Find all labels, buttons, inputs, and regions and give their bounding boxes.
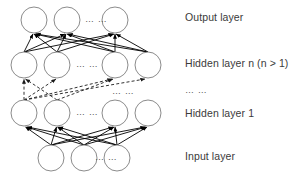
node-hidden-1-1: [11, 100, 37, 126]
node-input-1: [38, 145, 64, 171]
row-ellipsis-output: … …: [85, 14, 107, 24]
network-graphic: [0, 0, 306, 176]
label-input-layer: Input layer: [185, 150, 235, 162]
node-input-2: [71, 145, 97, 171]
node-hidden-n-2: [44, 52, 70, 78]
node-hidden-1-4: [135, 100, 161, 126]
node-hidden-n-3: [102, 52, 128, 78]
label-layers-ellipsis: … …: [185, 85, 207, 95]
node-hidden-1-3: [102, 100, 128, 126]
label-hidden-layer-1: Hidden layer 1: [185, 107, 254, 119]
edges-hiddenn-to-output: [24, 34, 148, 52]
node-hidden-n-4: [135, 52, 161, 78]
node-hidden-1-2: [44, 100, 70, 126]
node-hidden-n-1: [11, 52, 37, 78]
node-output-2: [54, 7, 80, 33]
neural-network-diagram: … … … … … … … … … … Output layer Hidden …: [0, 0, 306, 176]
layer-nodes-output: [21, 7, 128, 33]
row-ellipsis-hidden-n: … …: [76, 59, 98, 69]
label-hidden-layer-n: Hidden layer n (n > 1): [185, 57, 288, 69]
row-ellipsis-hidden-1: … …: [76, 107, 98, 117]
label-output-layer: Output layer: [185, 11, 243, 23]
node-output-1: [21, 7, 47, 33]
edges-input-to-hidden1: [26, 127, 148, 145]
row-ellipsis-input: … …: [95, 152, 117, 162]
row-ellipsis-mid: … …: [112, 86, 134, 96]
